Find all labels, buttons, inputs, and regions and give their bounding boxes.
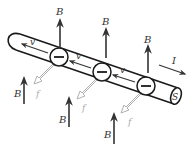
electron-3	[137, 77, 155, 95]
b-label: B	[55, 6, 63, 17]
b-arrows-bottom: B B B	[13, 78, 114, 144]
force-label: f	[35, 89, 41, 99]
velocity-label: v	[30, 37, 35, 47]
force-arrow-2: f	[77, 79, 97, 113]
electron-2	[93, 63, 111, 81]
b-label: B	[143, 34, 151, 45]
force-arrow-1: f	[34, 64, 54, 99]
current-label: I	[171, 55, 177, 66]
conductor-diagram: B B B S v v v f f	[0, 0, 192, 152]
b-label: B	[101, 16, 109, 27]
b-label: B	[13, 88, 21, 99]
b-arrow-top-1: B	[55, 6, 63, 48]
force-arrow-3: f	[121, 93, 141, 127]
b-label: B	[58, 114, 66, 125]
force-label: f	[81, 103, 87, 113]
velocity-label: v	[120, 65, 125, 75]
b-arrow-bottom-2: B	[58, 98, 69, 127]
force-label: f	[127, 117, 133, 127]
b-label: B	[103, 129, 111, 140]
current-arrow: I	[159, 55, 185, 74]
b-arrow-bottom-1: B	[13, 78, 24, 104]
electrons	[50, 48, 155, 95]
cross-section-label: S	[172, 92, 178, 102]
b-arrow-top-2: B	[101, 16, 109, 58]
electron-1	[50, 48, 68, 66]
b-arrow-top-3: B	[143, 34, 151, 73]
b-arrow-bottom-3: B	[103, 114, 114, 144]
velocity-label: v	[76, 51, 81, 61]
